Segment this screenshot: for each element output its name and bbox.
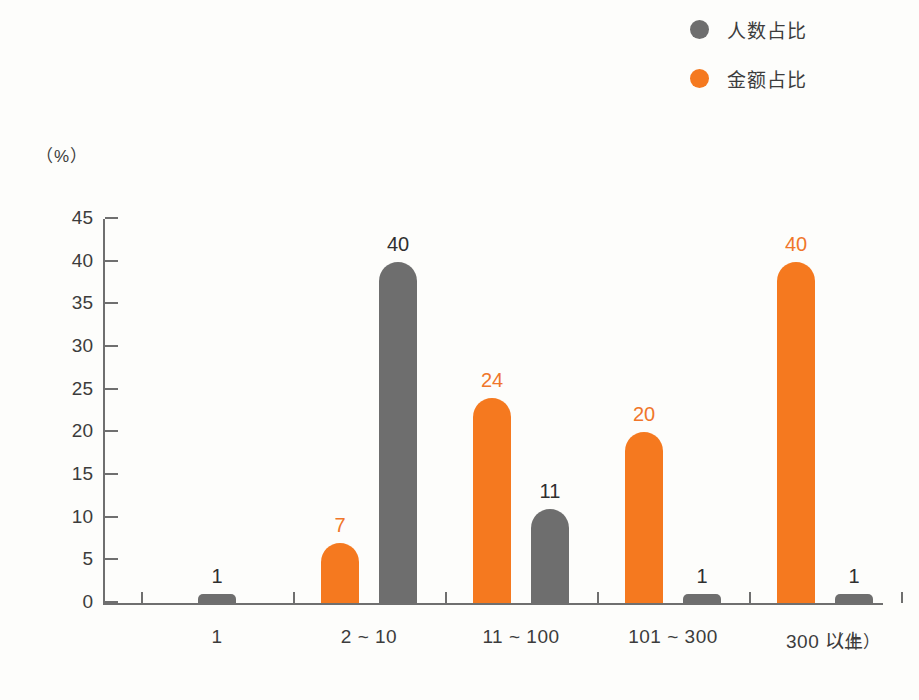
x-tick-5 bbox=[901, 592, 903, 603]
y-tick-5: 5 bbox=[105, 558, 118, 560]
bar-label-renshu-3: 1 bbox=[696, 565, 707, 588]
bar-jine-2[interactable] bbox=[473, 398, 511, 603]
bar-jine-1[interactable] bbox=[321, 543, 359, 603]
legend-item-renshu[interactable]: 人数占比 bbox=[690, 16, 807, 43]
x-category-label-0: 1 bbox=[211, 626, 222, 648]
y-tick-label-25: 25 bbox=[72, 378, 93, 400]
x-axis-line bbox=[103, 603, 883, 605]
circle-marker-orange-icon bbox=[690, 69, 709, 88]
x-category-label-2: 11 ~ 100 bbox=[482, 626, 559, 648]
y-tick-label-0: 0 bbox=[82, 591, 93, 613]
y-tick-10: 10 bbox=[105, 516, 118, 518]
bar-renshu-2[interactable] bbox=[531, 509, 569, 603]
x-category-label-4: 300 以上 bbox=[786, 626, 864, 653]
x-category-label-1: 2 ~ 10 bbox=[341, 626, 397, 648]
bar-label-renshu-2: 11 bbox=[540, 480, 561, 503]
y-tick-25: 25 bbox=[105, 388, 118, 390]
bar-label-jine-1: 7 bbox=[334, 514, 345, 537]
y-tick-label-40: 40 bbox=[72, 250, 93, 272]
bar-label-renshu-4: 1 bbox=[848, 565, 859, 588]
x-tick-2 bbox=[445, 592, 447, 603]
y-tick-label-5: 5 bbox=[82, 548, 93, 570]
chart-legend: 人数占比 金额占比 bbox=[690, 16, 807, 92]
y-tick-30: 30 bbox=[105, 345, 118, 347]
bar-label-renshu-0: 1 bbox=[211, 565, 222, 588]
y-tick-20: 20 bbox=[105, 430, 118, 432]
bar-jine-4[interactable] bbox=[777, 262, 815, 603]
y-tick-15: 15 bbox=[105, 473, 118, 475]
legend-label-renshu: 人数占比 bbox=[727, 16, 807, 43]
y-tick-label-30: 30 bbox=[72, 335, 93, 357]
y-tick-label-45: 45 bbox=[72, 207, 93, 229]
y-tick-label-20: 20 bbox=[72, 420, 93, 442]
x-tick-4 bbox=[749, 592, 751, 603]
bar-renshu-1[interactable] bbox=[379, 262, 417, 603]
legend-label-jine: 金额占比 bbox=[727, 65, 807, 92]
y-tick-label-15: 15 bbox=[72, 463, 93, 485]
bar-label-jine-3: 20 bbox=[633, 403, 655, 426]
y-axis-line bbox=[103, 219, 105, 603]
x-category-label-3: 101 ~ 300 bbox=[628, 626, 718, 648]
circle-marker-gray-icon bbox=[690, 20, 709, 39]
y-tick-40: 40 bbox=[105, 260, 118, 262]
y-tick-label-35: 35 bbox=[72, 292, 93, 314]
bar-label-jine-4: 40 bbox=[785, 233, 807, 256]
bar-jine-3[interactable] bbox=[625, 432, 663, 603]
y-tick-label-10: 10 bbox=[72, 506, 93, 528]
y-tick-0: 0 bbox=[105, 601, 118, 603]
y-axis-unit-label: （%） bbox=[36, 142, 88, 167]
y-tick-45: 45 bbox=[105, 217, 118, 219]
bar-renshu-3[interactable] bbox=[683, 594, 721, 603]
x-tick-0 bbox=[141, 592, 143, 603]
plot-area: 051015202530354045 17402411201401 bbox=[103, 219, 883, 603]
bar-renshu-4[interactable] bbox=[835, 594, 873, 603]
x-tick-3 bbox=[597, 592, 599, 603]
y-tick-35: 35 bbox=[105, 302, 118, 304]
x-tick-1 bbox=[293, 592, 295, 603]
bar-label-jine-2: 24 bbox=[481, 369, 503, 392]
legend-item-jine[interactable]: 金额占比 bbox=[690, 65, 807, 92]
bar-label-renshu-1: 40 bbox=[387, 233, 409, 256]
bar-renshu-0[interactable] bbox=[198, 594, 236, 603]
bar-chart: 人数占比 金额占比 （%） （件） 051015202530354045 174… bbox=[0, 0, 919, 700]
